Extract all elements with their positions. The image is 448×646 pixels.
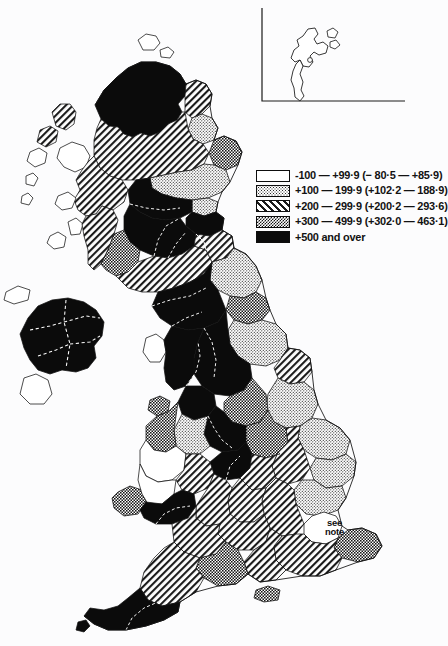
legend-row: -100 — +99·9 (− 80·5 — +85·9)	[256, 168, 418, 183]
see-note-annotation: see note	[325, 518, 344, 537]
legend-swatch-white-blank	[256, 170, 290, 182]
legend-row: +500 and over	[256, 230, 418, 245]
legend-label: +500 and over	[295, 232, 365, 243]
legend-row: +100 — 199·9 (+102·2 — 188·9)	[256, 183, 418, 198]
region-hebrides-small1	[26, 173, 38, 186]
inset-frame	[262, 8, 405, 101]
region-jura	[68, 218, 83, 235]
region-orkney-south	[160, 47, 174, 58]
region-hebrides-small2	[21, 193, 33, 205]
region-outer-hebrides-s	[27, 148, 47, 167]
legend-swatch-fine-stipple	[256, 185, 290, 197]
region-northern-ireland	[20, 298, 104, 374]
legend-swatch-solid-black	[256, 231, 290, 243]
region-ross-cromarty	[185, 80, 212, 118]
legend-swatch-dense-checker	[256, 216, 290, 228]
region-ireland-south-fragment	[20, 374, 52, 404]
legend-row: +300 — 499·9 (+302·0 — 463·1)	[256, 214, 418, 229]
region-outer-hebrides-m	[37, 126, 58, 147]
map-regions	[4, 34, 382, 632]
region-isle-of-man	[143, 334, 166, 362]
region-outer-hebrides-n	[52, 104, 76, 130]
legend-label: -100 — +99·9 (− 80·5 — +85·9)	[295, 170, 442, 181]
legend-label: +200 — 299·9 (+200·2 — 293·6)	[295, 201, 448, 212]
shetland-inset-group	[262, 8, 405, 101]
shetland-mainland	[291, 28, 328, 101]
region-islay	[47, 232, 66, 249]
legend-swatch-diagonal-hatch	[256, 200, 290, 212]
see-note-line-2: note	[325, 527, 344, 536]
region-norfolk	[298, 418, 350, 460]
region-isle-of-wight	[254, 586, 280, 602]
legend-row: +200 — 299·9 (+200·2 — 293·6)	[256, 199, 418, 214]
region-ireland-coast-fragment	[4, 286, 30, 304]
map-legend: -100 — +99·9 (− 80·5 — +85·9) +100 — 199…	[256, 168, 418, 245]
legend-label: +100 — 199·9 (+102·2 — 188·9)	[295, 185, 448, 196]
region-orkney	[138, 34, 160, 50]
region-durham-tyneside	[226, 292, 270, 324]
legend-label: +300 — 499·9 (+302·0 — 463·1)	[295, 216, 448, 227]
region-scilly	[76, 620, 90, 632]
region-mull	[55, 192, 76, 210]
